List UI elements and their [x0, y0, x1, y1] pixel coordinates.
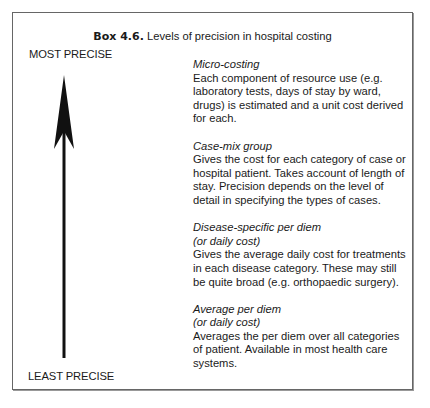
- box-title-text: Levels of precision in hospital costing: [144, 30, 332, 42]
- entry-average-per-diem: Average per diem (or daily cost) Average…: [193, 303, 408, 371]
- entry-case-mix-group: Case-mix group Gives the cost for each c…: [193, 140, 408, 208]
- box-number: Box 4.6.: [93, 30, 144, 43]
- entry-disease-specific-per-diem: Disease-specific per diem (or daily cost…: [193, 221, 408, 289]
- up-arrow-icon: [53, 73, 93, 373]
- box-title: Box 4.6. Levels of precision in hospital…: [13, 30, 412, 43]
- entry-subtitle: (or daily cost): [193, 316, 408, 330]
- entry-micro-costing: Micro-costing Each component of resource…: [193, 58, 408, 126]
- entry-description: Averages the per diem over all categorie…: [193, 330, 408, 371]
- most-precise-label: MOST PRECISE: [29, 48, 112, 60]
- entry-description: Gives the average daily cost for treatme…: [193, 248, 408, 289]
- entry-name: Average per diem: [193, 303, 408, 317]
- entry-subtitle: (or daily cost): [193, 235, 408, 249]
- costing-levels-list: Micro-costing Each component of resource…: [193, 58, 408, 384]
- entry-name: Micro-costing: [193, 58, 408, 72]
- entry-name: Case-mix group: [193, 140, 408, 154]
- entry-description: Each component of resource use (e.g. lab…: [193, 72, 408, 126]
- entry-name: Disease-specific per diem: [193, 221, 408, 235]
- least-precise-label: LEAST PRECISE: [28, 370, 114, 382]
- entry-description: Gives the cost for each category of case…: [193, 153, 408, 207]
- box-4-6: Box 4.6. Levels of precision in hospital…: [12, 12, 413, 390]
